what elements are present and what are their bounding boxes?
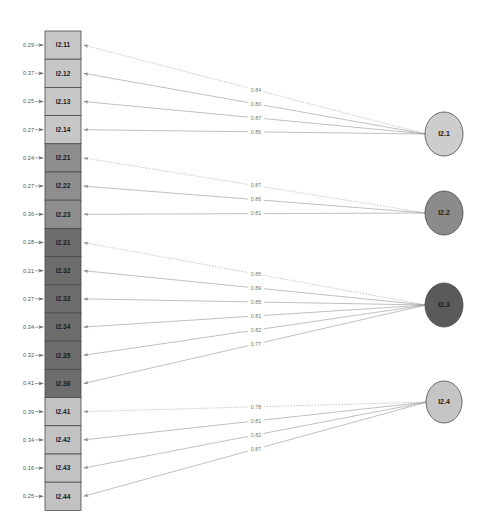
residual-value-label: 0.29 xyxy=(23,42,34,48)
loading-labels-group: 0.840.800.870.860.870.860.810.850.890.85… xyxy=(248,86,264,452)
residual-value-label: 0.16 xyxy=(23,465,34,471)
loading-label-group: 0.81 xyxy=(248,312,264,319)
loading-label-group: 0.85 xyxy=(248,270,264,277)
indicator-label: I2.22 xyxy=(56,182,71,189)
indicator-label: I2.32 xyxy=(56,267,71,274)
loading-label-group: 0.84 xyxy=(248,86,264,93)
indicator-label: I2.42 xyxy=(56,436,71,443)
residual-value-label: 0.25 xyxy=(23,98,34,104)
loading-value-label: 0.82 xyxy=(251,432,262,438)
loading-value-label: 0.85 xyxy=(251,271,262,277)
indicator-label: I2.41 xyxy=(56,408,71,415)
loading-label-group: 0.87 xyxy=(248,182,264,189)
loading-value-label: 0.87 xyxy=(251,446,262,452)
loading-label-group: 0.87 xyxy=(248,445,264,452)
loading-label-group: 0.81 xyxy=(248,417,264,424)
indicator-label: I2.43 xyxy=(56,464,71,471)
residual-labels-group: 0.290.370.250.270.240.270.360.280.210.27… xyxy=(23,42,34,499)
indicator-label: I2.13 xyxy=(56,98,71,105)
loading-label-group: 0.85 xyxy=(248,298,264,305)
indicator-label: I2.36 xyxy=(56,380,71,387)
loading-label-group: 0.78 xyxy=(248,403,264,410)
residual-value-label: 0.27 xyxy=(23,183,34,189)
loading-value-label: 0.81 xyxy=(251,313,262,319)
loading-value-label: 0.81 xyxy=(251,210,262,216)
indicator-label: I2.31 xyxy=(56,239,71,246)
loading-label-group: 0.82 xyxy=(248,326,264,333)
residual-arrows-group xyxy=(35,45,44,496)
indicator-boxes-group: I2.11I2.12I2.13I2.14I2.21I2.22I2.23I2.31… xyxy=(45,31,81,510)
latent-factor-label: I2.3 xyxy=(438,301,450,308)
residual-value-label: 0.24 xyxy=(23,155,34,161)
indicator-label: I2.14 xyxy=(56,126,71,133)
indicator-label: I2.11 xyxy=(56,41,71,48)
loading-value-label: 0.86 xyxy=(251,196,262,202)
loading-label-group: 0.82 xyxy=(248,431,264,438)
loading-value-label: 0.82 xyxy=(251,327,262,333)
latent-factor-label: I2.2 xyxy=(438,209,450,216)
loading-value-label: 0.80 xyxy=(251,101,262,107)
indicator-label: I2.33 xyxy=(56,295,71,302)
residual-value-label: 0.37 xyxy=(23,70,34,76)
residual-value-label: 0.34 xyxy=(23,437,34,443)
latent-factor-label: I2.1 xyxy=(438,130,450,137)
residual-value-label: 0.34 xyxy=(23,324,34,330)
loading-label-group: 0.87 xyxy=(248,114,264,121)
residual-value-label: 0.28 xyxy=(23,239,34,245)
loading-label-group: 0.86 xyxy=(248,128,264,135)
loading-value-label: 0.78 xyxy=(251,404,262,410)
latent-factor-label: I2.4 xyxy=(438,398,450,405)
residual-value-label: 0.25 xyxy=(23,493,34,499)
loading-label-group: 0.77 xyxy=(248,340,264,347)
loading-value-label: 0.87 xyxy=(251,115,262,121)
loading-value-label: 0.85 xyxy=(251,299,262,305)
residual-value-label: 0.27 xyxy=(23,296,34,302)
residual-value-label: 0.41 xyxy=(23,380,34,386)
loading-label-group: 0.80 xyxy=(248,100,264,107)
residual-value-label: 0.27 xyxy=(23,127,34,133)
residual-value-label: 0.36 xyxy=(23,211,34,217)
indicator-label: I2.23 xyxy=(56,211,71,218)
indicator-label: I2.35 xyxy=(56,352,71,359)
loading-label-group: 0.86 xyxy=(248,196,264,203)
loading-value-label: 0.89 xyxy=(251,285,262,291)
path-diagram-canvas: I2.11I2.12I2.13I2.14I2.21I2.22I2.23I2.31… xyxy=(0,0,485,530)
latent-factors-group: I2.1I2.2I2.3I2.4 xyxy=(425,112,463,423)
loading-value-label: 0.84 xyxy=(251,87,262,93)
indicator-label: I2.21 xyxy=(56,154,71,161)
loading-value-label: 0.87 xyxy=(251,182,262,188)
residual-value-label: 0.39 xyxy=(23,409,34,415)
loading-value-label: 0.81 xyxy=(251,418,262,424)
indicator-label: I2.12 xyxy=(56,70,71,77)
loading-label-group: 0.89 xyxy=(248,284,264,291)
indicator-label: I2.44 xyxy=(56,493,71,500)
loading-label-group: 0.81 xyxy=(248,210,264,217)
loading-value-label: 0.86 xyxy=(251,129,262,135)
indicator-label: I2.34 xyxy=(56,323,71,330)
loading-value-label: 0.77 xyxy=(251,341,262,347)
residual-value-label: 0.32 xyxy=(23,352,34,358)
residual-value-label: 0.21 xyxy=(23,268,34,274)
